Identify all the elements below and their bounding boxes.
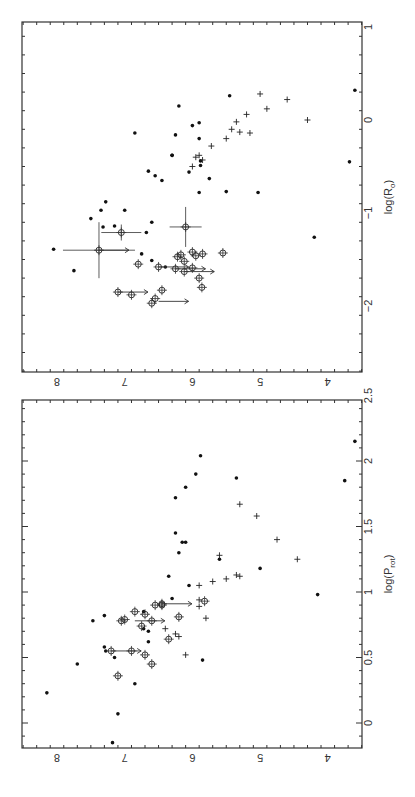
fx-tick-label: 5 <box>257 752 263 764</box>
fx-tick-label: 8 <box>54 752 60 764</box>
axis-labels: 87654−2−101log(Ro)8765400.511.522.5log(P… <box>54 24 397 764</box>
fx-tick-label: 6 <box>189 376 195 388</box>
figure: 87654−2−101log(Ro)8765400.511.522.5log(P… <box>0 0 415 797</box>
data-points <box>45 88 357 744</box>
axis-tick-label: −1 <box>362 207 374 220</box>
fx-tick-label: 4 <box>325 376 331 388</box>
lower-panel-frame <box>22 400 362 748</box>
axis-tick-label: 1 <box>362 24 374 30</box>
axis-tick-label: 0 <box>362 117 374 123</box>
axis-tick-label: 1.5 <box>362 519 374 534</box>
axis-tick-label: 1 <box>362 589 374 595</box>
axis-tick-label: 2.5 <box>362 388 374 403</box>
fx-tick-label: 6 <box>189 752 195 764</box>
axis-title: log(Prot) <box>382 555 397 594</box>
fx-tick-label: 7 <box>122 752 128 764</box>
axis-tick-label: −2 <box>362 300 374 313</box>
upper-panel-frame <box>22 22 362 372</box>
axis-tick-label: 0.5 <box>362 650 374 665</box>
axis-tick-label: 0 <box>362 720 374 726</box>
fx-tick-label: 4 <box>325 752 331 764</box>
axis-title: log(Ro) <box>382 180 397 214</box>
fx-tick-label: 8 <box>54 376 60 388</box>
fx-tick-label: 7 <box>122 376 128 388</box>
fx-tick-label: 5 <box>257 376 263 388</box>
axis-tick-label: 2 <box>362 458 374 464</box>
